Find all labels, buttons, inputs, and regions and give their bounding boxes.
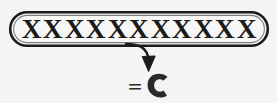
x-symbol: X <box>42 16 64 43</box>
x-symbol: X <box>236 16 258 43</box>
x-symbol: X <box>85 16 107 43</box>
x-symbol: X <box>214 16 236 43</box>
result-expression: = <box>128 72 171 100</box>
x-symbol: X <box>171 16 193 43</box>
x-symbol: X <box>193 16 215 43</box>
figure-canvas: X X X X X X X X X X X = <box>0 0 277 103</box>
x-symbol: X <box>64 16 86 43</box>
x-symbol: X <box>107 16 129 43</box>
x-symbol: X <box>150 16 172 43</box>
x-symbol: X <box>21 16 43 43</box>
crescent-c-glyph-icon <box>145 72 171 100</box>
equals-sign: = <box>128 75 142 96</box>
x-symbol: X <box>128 16 150 43</box>
curved-down-arrow-icon <box>118 42 168 74</box>
